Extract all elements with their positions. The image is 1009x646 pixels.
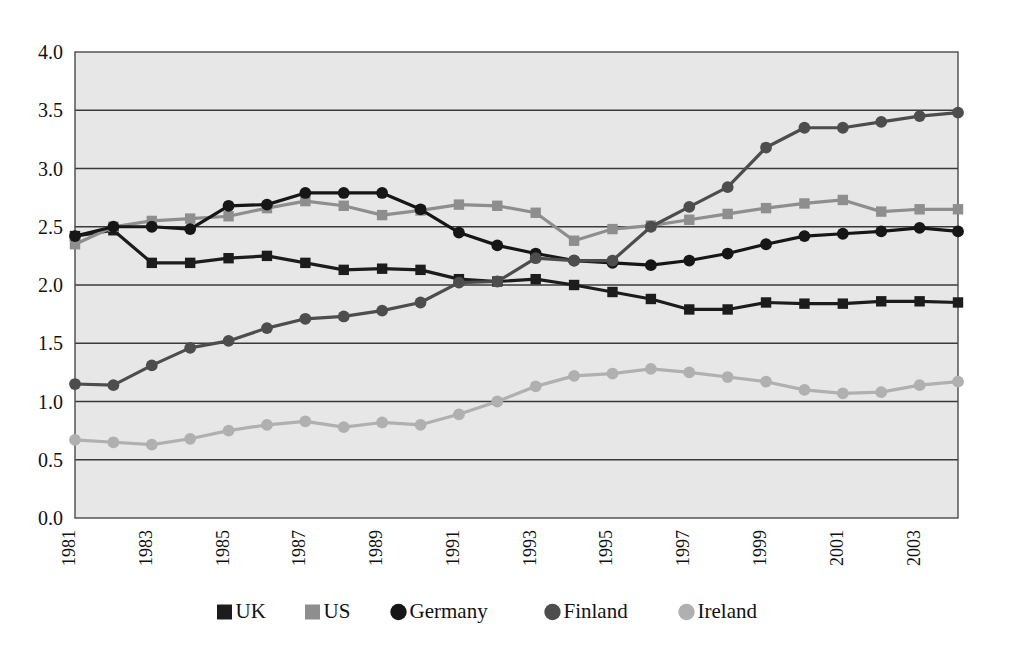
legend-marker-circle (544, 604, 560, 620)
legend-marker-circle (390, 604, 406, 620)
data-point (184, 223, 196, 235)
data-point (415, 297, 427, 309)
data-point (875, 386, 887, 398)
data-point (185, 213, 195, 223)
data-point (299, 187, 311, 199)
data-point (722, 304, 732, 314)
legend-label: Germany (410, 599, 489, 623)
data-point (376, 417, 388, 429)
data-point (683, 255, 695, 267)
legend-item-uk[interactable]: UK (217, 599, 266, 623)
data-point (914, 222, 926, 234)
chart-figure: 0.00.51.01.52.02.53.03.54.0 198119831985… (0, 0, 1009, 646)
data-point (876, 296, 886, 306)
data-point (453, 408, 465, 420)
data-point (838, 195, 848, 205)
data-point (147, 258, 157, 268)
data-point (646, 294, 656, 304)
data-point (568, 255, 580, 267)
data-point (299, 415, 311, 427)
data-point (184, 433, 196, 445)
data-point (530, 208, 540, 218)
data-point (376, 187, 388, 199)
data-point (645, 363, 657, 375)
data-point (722, 209, 732, 219)
data-point (875, 226, 887, 238)
legend-item-ireland[interactable]: Ireland (678, 599, 757, 623)
data-point (914, 296, 924, 306)
data-point (799, 230, 811, 242)
data-point (683, 366, 695, 378)
data-point (299, 313, 311, 325)
y-tick-label: 2.5 (38, 216, 63, 238)
data-point (953, 204, 963, 214)
data-point (223, 425, 235, 437)
x-tick-label: 1989 (366, 530, 386, 566)
data-point (837, 122, 849, 134)
data-point (760, 376, 772, 388)
data-point (69, 434, 81, 446)
data-point (415, 419, 427, 431)
data-point (261, 322, 273, 334)
data-point (914, 379, 926, 391)
data-point (760, 238, 772, 250)
x-tick-label: 1987 (289, 530, 309, 566)
data-point (952, 107, 964, 119)
data-point (569, 280, 579, 290)
data-point (607, 255, 619, 267)
x-tick-label: 1997 (673, 530, 693, 566)
data-point (607, 368, 619, 380)
data-point (223, 253, 233, 263)
data-point (453, 277, 465, 289)
data-point (491, 276, 503, 288)
legend-item-us[interactable]: US (305, 599, 350, 623)
data-point (875, 116, 887, 128)
data-point (107, 436, 119, 448)
data-point (683, 201, 695, 213)
data-point (415, 265, 425, 275)
data-point (761, 297, 771, 307)
data-point (223, 211, 233, 221)
data-point (722, 371, 734, 383)
data-point (530, 274, 540, 284)
data-point (953, 297, 963, 307)
data-point (607, 224, 617, 234)
data-point (69, 378, 81, 390)
legend-item-finland[interactable]: Finland (544, 599, 628, 623)
data-point (223, 200, 235, 212)
data-point (530, 252, 542, 264)
y-tick-label: 0.0 (38, 507, 63, 529)
data-point (146, 359, 158, 371)
data-point (339, 265, 349, 275)
data-point (376, 305, 388, 317)
plot-area (75, 52, 958, 518)
data-point (876, 206, 886, 216)
data-point (377, 263, 387, 273)
data-point (799, 122, 811, 134)
legend-item-germany[interactable]: Germany (390, 599, 488, 623)
x-tick-label: 1991 (443, 530, 463, 566)
data-point (454, 199, 464, 209)
x-tick-label: 1983 (136, 530, 156, 566)
x-tick-label: 1985 (213, 530, 233, 566)
x-axis-ticks: 1981198319851987198919911993199519971999… (59, 530, 924, 566)
data-point (684, 304, 694, 314)
data-point (185, 258, 195, 268)
data-point (262, 251, 272, 261)
data-point (491, 396, 503, 408)
data-point (453, 227, 465, 239)
x-tick-label: 2001 (827, 530, 847, 566)
data-point (684, 215, 694, 225)
data-point (837, 228, 849, 240)
data-point (838, 298, 848, 308)
y-tick-label: 1.0 (38, 391, 63, 413)
data-point (837, 387, 849, 399)
x-tick-label: 2003 (904, 530, 924, 566)
data-point (146, 221, 158, 233)
legend-marker-square (305, 605, 320, 620)
data-point (952, 376, 964, 388)
legend-label: Finland (564, 599, 629, 623)
data-point (799, 298, 809, 308)
x-tick-label: 1993 (520, 530, 540, 566)
data-point (722, 248, 734, 260)
